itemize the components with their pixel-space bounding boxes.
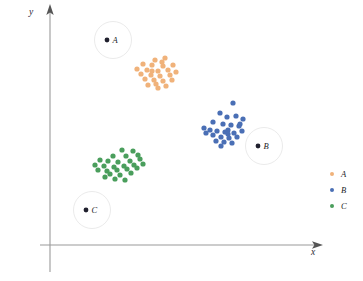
data-point	[140, 61, 145, 66]
data-point	[159, 59, 164, 64]
data-point	[152, 57, 157, 62]
data-point	[117, 172, 122, 177]
data-point	[173, 69, 178, 74]
plot-canvas	[0, 0, 363, 281]
data-point	[233, 113, 238, 118]
centroid-label-a: A	[113, 36, 118, 45]
data-point	[218, 134, 223, 139]
data-point	[239, 128, 244, 133]
data-point	[155, 68, 160, 73]
y-axis-label: y	[29, 8, 33, 18]
data-point	[230, 100, 235, 105]
centroid-dot-a	[105, 38, 110, 43]
data-point	[167, 72, 172, 77]
legend-swatch-icon	[330, 172, 334, 176]
data-point	[201, 125, 206, 130]
centroid-label-c: C	[92, 206, 98, 215]
data-point	[105, 158, 110, 163]
data-point	[217, 110, 222, 115]
data-points-group	[92, 55, 245, 182]
data-point	[134, 66, 139, 71]
data-point	[228, 122, 233, 127]
data-point	[169, 77, 174, 82]
data-point	[102, 174, 107, 179]
data-point	[142, 76, 147, 81]
legend: ABC	[330, 166, 363, 214]
data-point	[157, 73, 162, 78]
legend-label: B	[341, 186, 346, 195]
data-point	[224, 114, 229, 119]
data-point	[229, 140, 234, 145]
data-point	[220, 121, 225, 126]
centroid-dot-c	[84, 208, 89, 213]
data-point	[124, 166, 129, 171]
centroid-markers-group	[74, 22, 283, 229]
data-point	[127, 158, 132, 163]
data-point	[163, 83, 168, 88]
data-point	[134, 165, 139, 170]
data-point	[110, 153, 115, 158]
data-point	[101, 163, 106, 168]
data-point	[144, 67, 149, 72]
data-point	[107, 171, 112, 176]
data-point	[138, 71, 143, 76]
legend-swatch-icon	[330, 204, 334, 208]
data-point	[170, 62, 175, 67]
data-point	[140, 161, 145, 166]
data-point	[165, 67, 170, 72]
data-point	[213, 138, 218, 143]
data-point	[114, 167, 119, 172]
data-point	[237, 121, 242, 126]
series-c	[92, 147, 145, 182]
data-point	[123, 153, 128, 158]
legend-label: A	[341, 170, 346, 179]
data-point	[149, 68, 154, 73]
data-point	[149, 62, 154, 67]
data-point	[210, 132, 215, 137]
data-point	[218, 143, 223, 148]
centroid-label-b: B	[264, 142, 269, 151]
data-point	[225, 131, 230, 136]
series-a	[134, 55, 178, 90]
data-point	[240, 116, 245, 121]
data-point	[137, 156, 142, 161]
x-axis-label: x	[311, 248, 315, 258]
data-point	[119, 147, 124, 152]
series-b	[201, 100, 245, 148]
legend-label: C	[341, 202, 347, 211]
legend-swatch-icon	[330, 188, 334, 192]
data-point	[97, 157, 102, 162]
centroid-dot-b	[256, 144, 261, 149]
data-point	[203, 130, 208, 135]
legend-item-c[interactable]: C	[330, 198, 363, 214]
legend-item-a[interactable]: A	[330, 166, 363, 182]
data-point	[122, 177, 127, 182]
data-point	[210, 119, 215, 124]
data-point	[214, 128, 219, 133]
data-point	[234, 134, 239, 139]
data-point	[115, 159, 120, 164]
data-point	[92, 162, 97, 167]
data-point	[128, 170, 133, 175]
legend-item-b[interactable]: B	[330, 182, 363, 198]
data-point	[155, 85, 160, 90]
data-point	[160, 78, 165, 83]
data-point	[130, 148, 135, 153]
data-point	[95, 167, 100, 172]
data-point	[112, 176, 117, 181]
scatter-plot-figure: y x ABC ABC	[0, 0, 363, 281]
data-point	[145, 82, 150, 87]
